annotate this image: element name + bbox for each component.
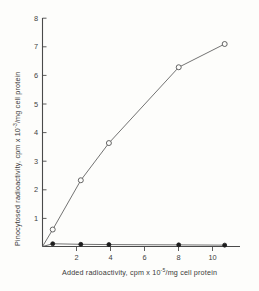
y-axis-title-tail: /mg cell protein — [13, 71, 22, 123]
y-tick-label-4: 4 — [34, 128, 38, 137]
series-line-pinocytosed-open — [43, 44, 225, 247]
y-tick-label-8: 8 — [34, 14, 38, 23]
x-axis-tick-labels: 2 4 6 8 10 — [74, 253, 216, 262]
data-point-pinocytosed-open-3 — [106, 141, 111, 146]
y-axis-title-main: Pinocytosed radioactivity, cpm x 10 — [13, 128, 22, 246]
x-tick-label-10: 10 — [208, 253, 216, 262]
data-point-control-filled-4 — [177, 243, 181, 247]
x-axis-title-tail: /mg cell protein — [165, 268, 217, 277]
y-axis-ticks — [43, 18, 47, 218]
chart-svg: Pinocytosed radioactivity, cpm x 10-3/mg… — [0, 0, 259, 291]
data-point-control-filled-2 — [79, 242, 83, 246]
data-point-pinocytosed-open-1 — [50, 227, 55, 232]
y-axis-title-group: Pinocytosed radioactivity, cpm x 10-3/mg… — [12, 71, 22, 246]
x-axis-ticks — [77, 247, 213, 252]
x-axis-title-main: Added radioactivity, cpm x 10 — [62, 268, 161, 277]
x-axis-title: Added radioactivity, cpm x 10-5/mg cell … — [62, 267, 217, 277]
y-tick-label-6: 6 — [34, 71, 38, 80]
data-point-pinocytosed-open-4 — [176, 65, 181, 70]
data-point-control-filled-1 — [51, 242, 55, 246]
y-tick-label-5: 5 — [34, 100, 38, 109]
y-tick-label-7: 7 — [34, 42, 38, 51]
x-tick-label-6: 6 — [142, 253, 146, 262]
x-tick-label-8: 8 — [176, 253, 180, 262]
x-tick-label-4: 4 — [108, 253, 112, 262]
data-point-pinocytosed-open-2 — [78, 178, 83, 183]
axes — [43, 18, 241, 247]
y-tick-label-2: 2 — [34, 185, 38, 194]
y-tick-label-3: 3 — [34, 157, 38, 166]
data-point-control-filled-5 — [223, 243, 227, 247]
data-point-control-filled-3 — [107, 243, 111, 247]
x-axis-title-group: Added radioactivity, cpm x 10-5/mg cell … — [62, 267, 217, 277]
data-point-pinocytosed-open-5 — [222, 42, 227, 47]
y-axis-tick-labels: 1 2 3 4 5 6 7 8 — [34, 14, 38, 223]
data-series-layer — [43, 42, 228, 248]
x-tick-label-2: 2 — [74, 253, 78, 262]
series-pinocytosed-open — [43, 42, 228, 247]
chart-figure: Pinocytosed radioactivity, cpm x 10-3/mg… — [0, 0, 259, 291]
y-tick-label-1: 1 — [34, 214, 38, 223]
y-axis-title: Pinocytosed radioactivity, cpm x 10-3/mg… — [12, 71, 22, 246]
